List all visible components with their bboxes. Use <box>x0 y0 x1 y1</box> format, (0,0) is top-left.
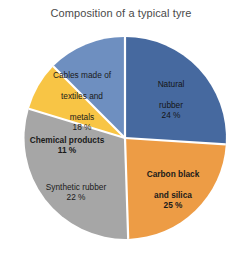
pie-chart-figure: Composition of a typical tyre Natural ru… <box>0 0 242 254</box>
pie-slice-carbon-black-and-silica[interactable] <box>125 138 226 239</box>
pie-svg <box>0 0 242 254</box>
pie-slice-natural-rubber[interactable] <box>125 37 226 144</box>
